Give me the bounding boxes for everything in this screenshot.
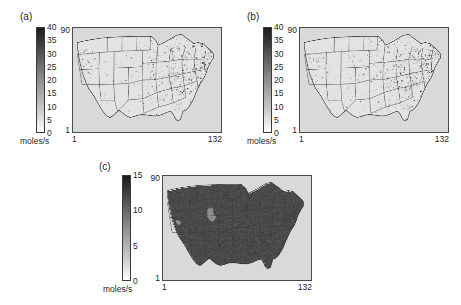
panel-a: (a) 0510152025303540 moles/s 90 1 1 132 bbox=[0, 0, 231, 155]
colorbar-tick-label: 5 bbox=[274, 116, 279, 124]
colorbar-tick-label: 5 bbox=[133, 242, 138, 250]
panel-c-ytick-bottom: 1 bbox=[155, 274, 160, 282]
colorbar-tick-label: 10 bbox=[133, 206, 142, 214]
colorbar-tick-label: 15 bbox=[133, 171, 142, 179]
colorbar-tick-label: 30 bbox=[47, 50, 56, 58]
panel-a-ytick-bottom: 1 bbox=[65, 126, 70, 134]
panel-b-colorbar-unit: moles/s bbox=[247, 136, 276, 146]
panel-a-map bbox=[72, 27, 222, 133]
colorbar-tick-label: 20 bbox=[274, 76, 283, 84]
panel-a-map-canvas bbox=[73, 28, 221, 132]
colorbar-tick-label: 10 bbox=[274, 103, 283, 111]
colorbar-tick-label: 35 bbox=[47, 36, 56, 44]
panel-b-xtick-right: 132 bbox=[435, 135, 449, 143]
colorbar-tick-label: 40 bbox=[274, 23, 283, 31]
panel-c-map bbox=[162, 175, 312, 281]
colorbar-tick-label: 25 bbox=[47, 63, 56, 71]
panel-c-colorbar-unit: moles/s bbox=[103, 284, 132, 294]
colorbar-tick-label: 0 bbox=[133, 277, 138, 285]
colorbar-tick-label: 15 bbox=[47, 89, 56, 97]
panel-b-ytick-top: 90 bbox=[288, 26, 297, 34]
panel-c-colorbar: 051015 bbox=[122, 175, 155, 281]
panel-a-colorbar-ticks: 0510152025303540 bbox=[47, 27, 69, 133]
panel-c-xtick-right: 132 bbox=[298, 283, 312, 291]
panel-b-colorbar: 0510152025303540 bbox=[263, 27, 296, 133]
colorbar-tick-label: 25 bbox=[274, 63, 283, 71]
colorbar-tick-label: 15 bbox=[274, 89, 283, 97]
panel-b-map bbox=[299, 27, 449, 133]
panel-a-colorbar-unit: moles/s bbox=[20, 136, 49, 146]
colorbar-tick-label: 20 bbox=[47, 76, 56, 84]
panel-b-map-canvas bbox=[300, 28, 448, 132]
panel-c-xtick-left: 1 bbox=[162, 283, 167, 291]
panel-c-colorbar-gradient bbox=[122, 175, 131, 281]
panel-c: (c) 051015 moles/s 90 1 1 132 bbox=[96, 155, 346, 305]
panel-a-label: (a) bbox=[20, 11, 32, 22]
panel-b-colorbar-gradient bbox=[263, 27, 272, 133]
panel-c-ytick-top: 90 bbox=[151, 174, 160, 182]
panel-b-colorbar-ticks: 0510152025303540 bbox=[274, 27, 296, 133]
panel-c-map-canvas bbox=[163, 176, 311, 280]
panel-a-ytick-top: 90 bbox=[61, 26, 70, 34]
panel-b-ytick-bottom: 1 bbox=[292, 126, 297, 134]
panel-b-label: (b) bbox=[247, 11, 259, 22]
colorbar-tick-label: 10 bbox=[47, 103, 56, 111]
panel-a-colorbar: 0510152025303540 bbox=[36, 27, 69, 133]
panel-a-xtick-right: 132 bbox=[208, 135, 222, 143]
panel-b-xtick-left: 1 bbox=[299, 135, 304, 143]
colorbar-tick-label: 5 bbox=[47, 116, 52, 124]
colorbar-tick-label: 35 bbox=[274, 36, 283, 44]
figure-panel-group: (a) 0510152025303540 moles/s 90 1 1 132 … bbox=[0, 0, 461, 305]
colorbar-tick-label: 30 bbox=[274, 50, 283, 58]
panel-c-colorbar-ticks: 051015 bbox=[133, 175, 155, 281]
panel-a-xtick-left: 1 bbox=[72, 135, 77, 143]
colorbar-tick-label: 40 bbox=[47, 23, 56, 31]
panel-a-colorbar-gradient bbox=[36, 27, 45, 133]
panel-b: (b) 0510152025303540 moles/s 90 1 1 132 bbox=[231, 0, 461, 155]
panel-c-label: (c) bbox=[99, 161, 111, 172]
